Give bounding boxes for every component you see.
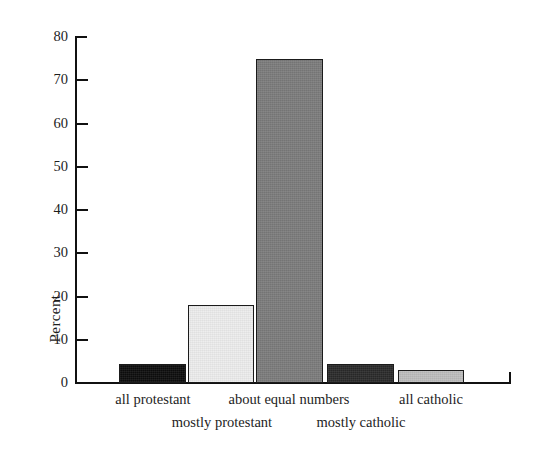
bar-chart: Percent 01020304050607080 all protestant… (0, 0, 540, 457)
y-tick-label-text: 20 (38, 289, 68, 304)
y-tick-label-70: 70 (38, 72, 68, 86)
y-tick-label-text: 40 (38, 202, 68, 217)
y-tick-label-40: 40 (38, 202, 68, 216)
bar-about-equal-numbers (256, 59, 323, 383)
x-axis-label-mostly-catholic: mostly catholic (251, 415, 471, 430)
bar-texture (399, 371, 463, 382)
y-tick-label-50: 50 (38, 159, 68, 173)
y-tick-label-text: 70 (38, 72, 68, 87)
bar-texture (189, 306, 253, 382)
y-tick-label-text: 80 (38, 29, 68, 44)
y-tick-20 (77, 296, 88, 298)
bar-all-protestant (119, 364, 186, 383)
y-tick-label-0: 0 (38, 375, 68, 389)
y-tick-label-text: 60 (38, 116, 68, 131)
y-tick-40 (77, 209, 88, 211)
y-tick-label-30: 30 (38, 245, 68, 259)
y-tick-label-10: 10 (38, 332, 68, 346)
bar-all-catholic (398, 370, 464, 383)
y-tick-10 (77, 339, 88, 341)
y-axis-top-cap (75, 36, 87, 38)
x-axis-label-all-catholic: all catholic (321, 392, 540, 407)
bar-mostly-catholic (327, 364, 394, 383)
y-tick-label-80: 80 (38, 29, 68, 43)
y-tick-60 (77, 123, 88, 125)
y-tick-50 (77, 166, 88, 168)
y-tick-label-20: 20 (38, 289, 68, 303)
bar-texture (257, 60, 322, 382)
y-tick-label-text: 0 (38, 375, 68, 390)
y-tick-label-text: 10 (38, 332, 68, 347)
bar-mostly-protestant (188, 305, 254, 383)
x-axis-end-tick (509, 372, 511, 384)
y-tick-30 (77, 252, 88, 254)
bar-texture (328, 365, 393, 382)
y-tick-label-text: 50 (38, 159, 68, 174)
y-tick-label-text: 30 (38, 245, 68, 260)
y-tick-70 (77, 79, 88, 81)
bar-texture (120, 365, 185, 382)
y-tick-label-60: 60 (38, 116, 68, 130)
y-axis-title: Percent (47, 274, 64, 364)
